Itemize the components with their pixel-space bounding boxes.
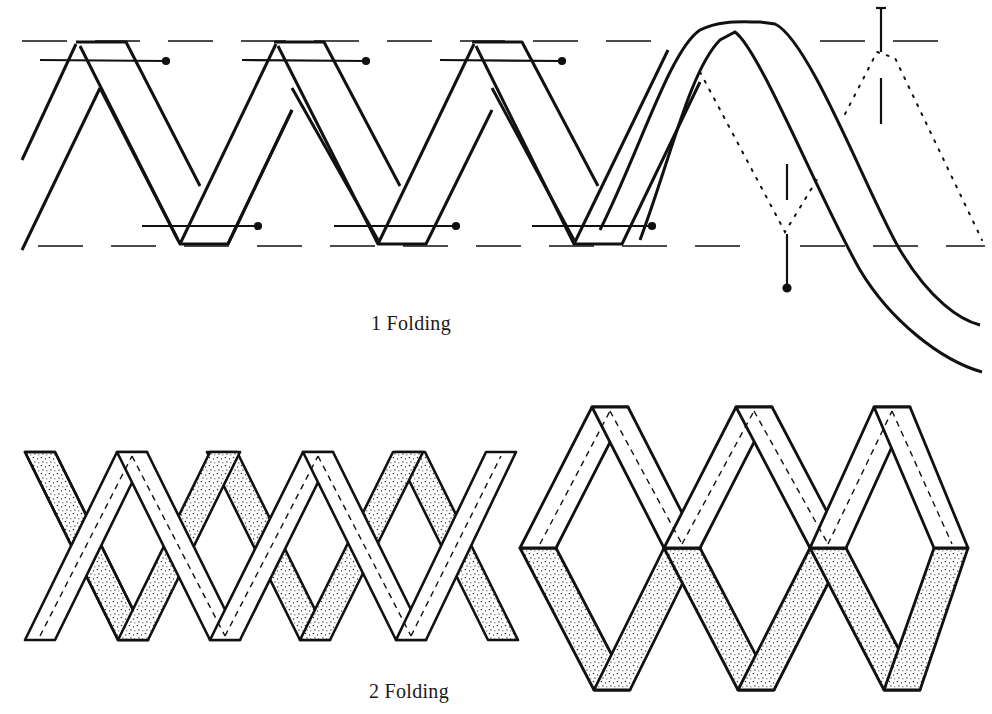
zigzag-strips [22, 42, 700, 250]
panel-1-zigzag [22, 8, 985, 372]
panel-2-diamond-right [520, 407, 968, 690]
panel-2-lattice-left [25, 452, 518, 640]
pins [40, 8, 886, 292]
folding-illustration: 1 Folding 2 Folding [0, 0, 992, 714]
caption-folding-1: 1 Folding [371, 312, 451, 335]
caption-folding-2: 2 Folding [369, 680, 449, 703]
dotted-fold-lines [700, 52, 982, 240]
folding-diagram-artwork [0, 0, 992, 714]
